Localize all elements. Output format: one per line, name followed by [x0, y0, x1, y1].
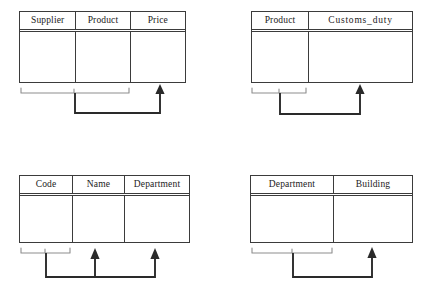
fd-bracket-product: [252, 88, 306, 93]
value-cell-building: [333, 196, 412, 242]
fd-connector-code-to-name-department: [21, 248, 160, 277]
value-cell-supplier: [20, 32, 75, 82]
relation-body-row: [20, 196, 189, 242]
attribute-header-name: Name: [72, 176, 124, 193]
value-cell-name: [72, 196, 124, 242]
attribute-header-supplier: Supplier: [20, 12, 75, 29]
relation-department-building: Department Building: [250, 175, 413, 243]
attribute-header-price: Price: [130, 12, 185, 29]
fd-bracket-code: [21, 248, 70, 253]
relation-header-row: Supplier Product Price: [20, 12, 185, 30]
relation-body-row: [252, 32, 412, 82]
fd-stem-to-customs-duty: [280, 92, 360, 114]
attribute-header-department: Department: [124, 176, 189, 193]
attribute-header-product: Product: [75, 12, 129, 29]
fd-diagram-canvas: Supplier Product Price Product Customs_d…: [0, 0, 432, 301]
value-cell-product: [75, 32, 129, 82]
value-cell-code: [20, 196, 72, 242]
fd-connector-department-to-building: [252, 247, 377, 277]
attribute-header-department: Department: [251, 176, 333, 193]
value-cell-department: [124, 196, 189, 242]
fd-bracket-supplier-product: [21, 88, 129, 93]
relation-header-row: Department Building: [251, 176, 412, 194]
fd-arrowhead-price: [155, 84, 164, 94]
relation-code-name-department: Code Name Department: [19, 175, 190, 243]
relation-body-row: [20, 32, 185, 82]
attribute-header-customs-duty: Customs_duty: [308, 12, 412, 29]
fd-stem-to-building: [293, 253, 372, 277]
attribute-header-product: Product: [252, 12, 308, 29]
relation-header-row: Product Customs_duty: [252, 12, 412, 30]
relation-supplier-product-price: Supplier Product Price: [19, 11, 186, 83]
value-cell-price: [130, 32, 185, 82]
attribute-header-code: Code: [20, 176, 72, 193]
value-cell-product: [252, 32, 308, 82]
fd-stem-to-price: [75, 92, 160, 113]
value-cell-department: [251, 196, 333, 242]
fd-arrowhead-department: [150, 248, 159, 259]
fd-arrowhead-building: [367, 247, 376, 258]
fd-arrowhead-customs-duty: [355, 84, 364, 94]
relation-body-row: [251, 196, 412, 242]
fd-connector-product-to-customs-duty: [252, 84, 365, 114]
relation-product-customs-duty: Product Customs_duty: [251, 11, 413, 83]
fd-stem-to-department: [46, 253, 155, 277]
fd-bracket-department: [252, 248, 332, 253]
fd-arrowhead-name: [90, 248, 99, 259]
fd-connector-supplier-product-to-price: [21, 84, 165, 113]
attribute-header-building: Building: [333, 176, 412, 193]
relation-header-row: Code Name Department: [20, 176, 189, 194]
value-cell-customs-duty: [308, 32, 412, 82]
